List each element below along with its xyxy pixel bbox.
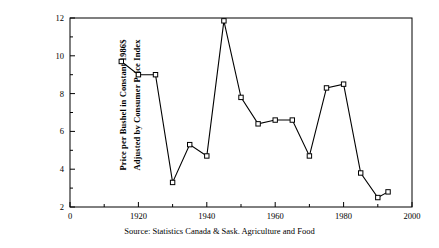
data-point-marker xyxy=(153,73,157,77)
y-tick-label-2: 2 xyxy=(60,202,64,212)
data-series-line xyxy=(121,21,388,198)
x-axis-tick-labels: 019201940196019802000 xyxy=(68,211,421,221)
x-tick-label-1940: 1940 xyxy=(198,211,215,221)
y-tick-label-10: 10 xyxy=(56,51,65,61)
data-point-marker xyxy=(273,118,277,122)
x-tick-label-1960: 1960 xyxy=(267,211,284,221)
x-tick-label-2000: 2000 xyxy=(404,211,421,221)
plot-area: 019201940196019802000 24681012 xyxy=(0,0,439,226)
y-axis-tick-labels: 24681012 xyxy=(56,13,65,212)
source-caption: Source: Statistics Canada & Sask. Agricu… xyxy=(0,226,439,236)
data-series-markers xyxy=(119,19,390,200)
y-tick-label-6: 6 xyxy=(60,126,64,136)
x-tick-label-0: 0 xyxy=(68,211,72,221)
y-tick-label-12: 12 xyxy=(56,13,65,23)
y-axis-ticks xyxy=(70,18,75,207)
data-point-marker xyxy=(307,154,311,158)
data-point-marker xyxy=(170,180,174,184)
plot-frame xyxy=(70,18,412,207)
data-point-marker xyxy=(188,142,192,146)
data-point-marker xyxy=(136,73,140,77)
data-point-marker xyxy=(256,122,260,126)
data-point-marker xyxy=(205,154,209,158)
x-tick-label-1980: 1980 xyxy=(335,211,352,221)
data-point-marker xyxy=(359,171,363,175)
data-point-marker xyxy=(290,118,294,122)
data-point-marker xyxy=(324,86,328,90)
x-tick-label-1920: 1920 xyxy=(130,211,147,221)
data-point-marker xyxy=(222,19,226,23)
chart-figure: Price per Bushel in Constant 1986$ Adjus… xyxy=(0,0,439,248)
data-point-marker xyxy=(119,59,123,63)
data-point-marker xyxy=(239,95,243,99)
y-tick-label-4: 4 xyxy=(60,164,65,174)
axes-frame xyxy=(70,18,412,207)
data-point-marker xyxy=(341,82,345,86)
data-point-marker xyxy=(376,195,380,199)
x-axis-ticks xyxy=(70,202,412,207)
y-tick-label-8: 8 xyxy=(60,89,64,99)
data-point-marker xyxy=(386,190,390,194)
